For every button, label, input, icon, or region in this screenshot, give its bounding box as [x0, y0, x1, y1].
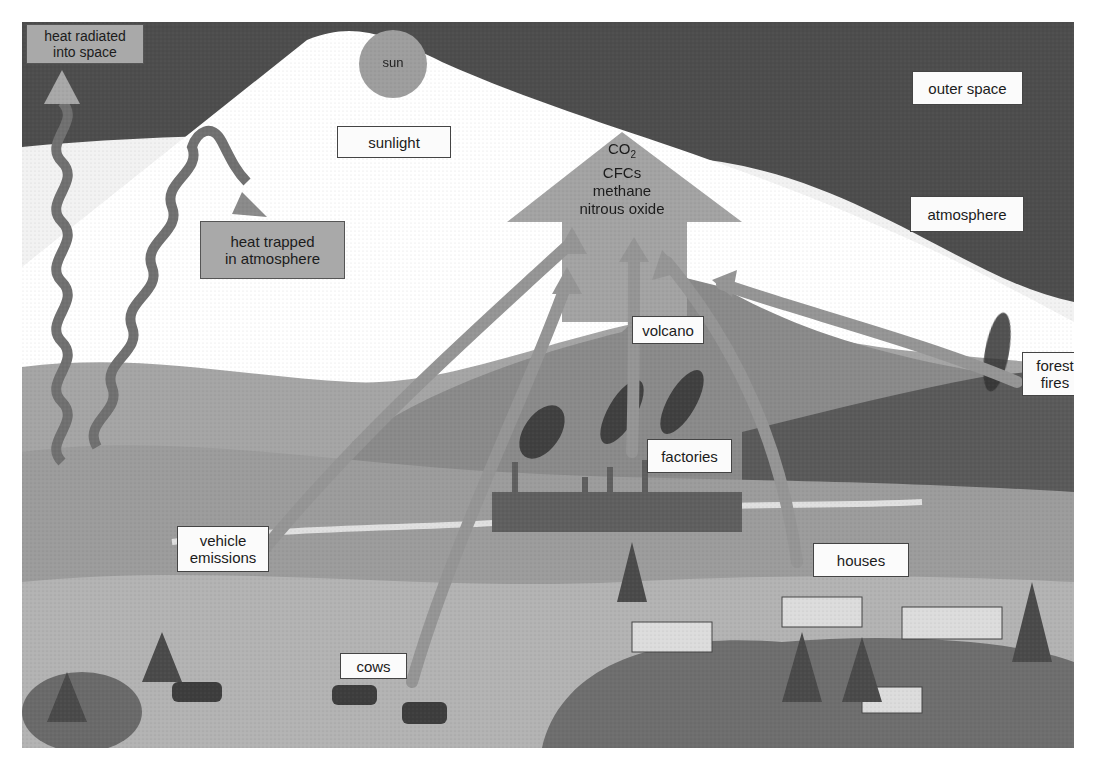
vehicle-emissions-line1: vehicle — [200, 532, 247, 549]
sunlight-label: sunlight — [337, 126, 451, 158]
greenhouse-gases-list: CO2 CFCs methane nitrous oxide — [562, 140, 682, 218]
vehicle-emissions-line2: emissions — [190, 549, 257, 566]
forest-fires-line1: forest — [1036, 357, 1074, 374]
scene-illustration — [22, 22, 1074, 748]
gas-cfcs: CFCs — [562, 164, 682, 182]
houses-label: houses — [813, 543, 909, 577]
greenhouse-diagram: heat radiated into space sun sunlight ou… — [22, 22, 1074, 748]
outer-space-label: outer space — [912, 71, 1023, 105]
atmosphere-label: atmosphere — [910, 196, 1024, 232]
heat-radiated-label: heat radiated into space — [26, 24, 144, 64]
heat-radiated-line1: heat radiated — [44, 28, 126, 44]
gas-methane: methane — [562, 182, 682, 200]
gas-nitrous-oxide: nitrous oxide — [562, 200, 682, 218]
volcano-label: volcano — [632, 316, 704, 344]
heat-trapped-label: heat trapped in atmosphere — [200, 221, 345, 279]
cows-label: cows — [340, 653, 407, 679]
heat-trapped-line2: in atmosphere — [225, 250, 320, 267]
forest-fires-line2: fires — [1041, 374, 1069, 391]
gas-co2: CO2 — [562, 140, 682, 164]
sun-label: sun — [377, 55, 409, 70]
forest-fires-label: forest fires — [1022, 352, 1074, 396]
heat-radiated-line2: into space — [53, 44, 117, 60]
vehicle-emissions-label: vehicle emissions — [177, 526, 269, 572]
factories-label: factories — [647, 439, 732, 473]
heat-trapped-line1: heat trapped — [230, 233, 314, 250]
